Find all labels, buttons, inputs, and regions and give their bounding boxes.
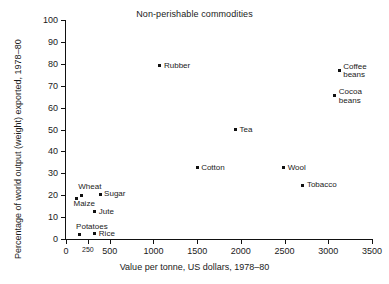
chart-title: Non-perishable commodities: [0, 9, 389, 19]
x-tick-mark: [88, 240, 89, 244]
x-axis-title: Value per tonne, US dollars, 1978–80: [0, 262, 389, 272]
data-point-label: Cotton: [201, 164, 225, 173]
y-tick-label: 0: [32, 235, 58, 244]
y-tick-label: 60: [32, 104, 58, 113]
y-tick-label: 50: [32, 126, 58, 135]
x-tick-mark: [66, 240, 67, 244]
data-point-marker: [99, 193, 102, 196]
x-axis-line: [65, 239, 373, 240]
y-tick-mark: [61, 151, 65, 152]
data-point-label: Maize: [73, 200, 94, 209]
y-axis-line: [65, 20, 66, 240]
x-tick-mark: [110, 240, 111, 244]
data-point-label: Jute: [99, 208, 114, 217]
data-point-marker: [80, 194, 83, 197]
y-tick-mark: [61, 42, 65, 43]
x-tick-label: 1000: [133, 247, 173, 256]
y-tick-label: 70: [32, 82, 58, 91]
data-point-label: Potatoes: [76, 223, 108, 232]
data-point-label: Rubber: [164, 62, 190, 71]
x-tick-label: 2000: [221, 247, 261, 256]
data-point-marker: [333, 94, 336, 97]
data-point-marker: [301, 184, 304, 187]
data-point-marker: [282, 166, 285, 169]
y-tick-mark: [61, 20, 65, 21]
data-point-label: Cocoa beans: [339, 88, 362, 105]
x-tick-label: 2500: [265, 247, 305, 256]
x-tick-mark: [328, 240, 329, 244]
data-point-label: Tobacco: [307, 181, 337, 190]
data-point-marker: [338, 69, 341, 72]
scatter-chart-figure: Non-perishable commodities 0102030405060…: [0, 0, 389, 284]
x-tick-label: 3000: [308, 247, 348, 256]
y-tick-mark: [61, 195, 65, 196]
y-tick-label: 40: [32, 147, 58, 156]
y-tick-label: 90: [32, 38, 58, 47]
data-point-marker: [158, 64, 161, 67]
data-point-marker: [196, 166, 199, 169]
y-tick-mark: [61, 86, 65, 87]
x-tick-label: 500: [90, 247, 130, 256]
data-point-label: Coffee beans: [343, 63, 366, 80]
data-point-label: Tea: [240, 126, 253, 135]
x-tick-label: 3500: [352, 247, 389, 256]
x-tick-mark: [372, 240, 373, 244]
data-point-label: Sugar: [104, 190, 125, 199]
data-point-marker: [93, 210, 96, 213]
data-point-marker: [93, 232, 96, 235]
data-point-label: Wool: [288, 164, 306, 173]
data-point-label: Wheat: [78, 183, 101, 192]
y-tick-mark: [61, 173, 65, 174]
y-tick-label: 80: [32, 60, 58, 69]
y-tick-label: 100: [32, 16, 58, 25]
y-tick-mark: [61, 130, 65, 131]
x-tick-mark: [241, 240, 242, 244]
y-tick-label: 10: [32, 213, 58, 222]
y-tick-mark: [61, 217, 65, 218]
y-tick-label: 30: [32, 169, 58, 178]
x-tick-mark: [153, 240, 154, 244]
x-tick-mark: [285, 240, 286, 244]
data-point-marker: [78, 233, 81, 236]
data-point-marker: [234, 128, 237, 131]
y-axis-title: Percentage of world output (weight) expo…: [13, 39, 23, 259]
y-tick-mark: [61, 108, 65, 109]
x-tick-label: 1500: [177, 247, 217, 256]
x-tick-mark: [197, 240, 198, 244]
y-tick-mark: [61, 239, 65, 240]
y-tick-mark: [61, 64, 65, 65]
y-tick-label: 20: [32, 191, 58, 200]
